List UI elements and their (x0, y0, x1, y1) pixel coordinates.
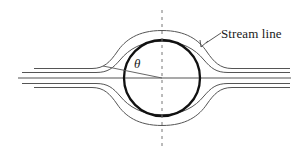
theta-angle-label: θ (134, 56, 140, 72)
theta-radius-line (103, 66, 162, 78)
streamline-lower-inner (22, 84, 290, 115)
streamline-upper-inner (22, 41, 290, 72)
flow-past-cylinder-figure: Stream line θ (0, 0, 301, 157)
stream-line-label: Stream line (221, 26, 282, 42)
streamline-lower-outer (34, 88, 290, 126)
stream-line-leader (200, 33, 221, 47)
diagram-canvas (0, 0, 301, 157)
